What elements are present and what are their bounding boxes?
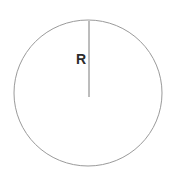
circle-radius-diagram: R — [0, 0, 178, 174]
radius-label: R — [76, 52, 86, 66]
diagram-canvas — [0, 0, 178, 174]
circle-outline — [14, 20, 162, 166]
